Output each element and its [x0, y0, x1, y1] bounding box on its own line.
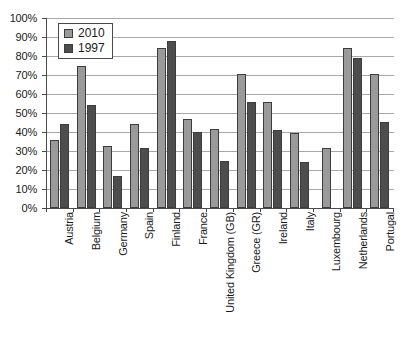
legend-swatch-1997 [64, 44, 73, 53]
x-axis-tick [46, 208, 47, 212]
bar-1997 [87, 105, 96, 208]
bar-group [153, 18, 180, 208]
bar-2010 [50, 140, 59, 208]
x-axis-tick [313, 208, 314, 212]
bar-2010 [263, 102, 272, 208]
bar-group [206, 18, 233, 208]
x-axis-tick [99, 208, 100, 212]
y-axis-tick-label: 40% [16, 126, 37, 138]
legend-item-2010: 2010 [64, 27, 105, 40]
bar-group [313, 18, 340, 208]
x-axis-tick [340, 208, 341, 212]
y-axis-tick-label: 80% [16, 50, 37, 62]
bar-2010 [322, 148, 331, 208]
legend-swatch-2010 [64, 29, 73, 38]
x-axis-tick [393, 208, 394, 212]
bar-1997 [380, 122, 389, 208]
bar-1997 [273, 130, 282, 208]
x-axis-label: Ireland [277, 212, 289, 244]
x-axis-label: Austria [63, 212, 75, 245]
x-axis-labels: AustriaBelgiumGermanySpainFinlandFranceU… [46, 212, 393, 332]
bar-2010 [157, 48, 166, 208]
legend-label-1997: 1997 [78, 42, 105, 55]
x-axis-label: Spain [143, 212, 155, 239]
bar-2010 [183, 119, 192, 208]
y-axis-tick-label: 10% [16, 183, 37, 195]
x-axis-tick [233, 208, 234, 212]
bar-2010 [130, 124, 139, 208]
bar-group [340, 18, 367, 208]
chart-legend: 2010 1997 [58, 23, 113, 59]
bar-1997 [193, 132, 202, 208]
bar-chart: 0%10%20%30%40%50%60%70%80%90%100% Austri… [0, 0, 406, 347]
y-axis-tick-label: 60% [16, 88, 37, 100]
x-axis-label: Greece (GR) [250, 212, 262, 273]
x-axis-tick [366, 208, 367, 212]
bar-group [179, 18, 206, 208]
bar-1997 [167, 41, 176, 208]
x-axis-tick [286, 208, 287, 212]
bar-2010 [370, 74, 379, 208]
y-axis-tick-label: 30% [16, 145, 37, 157]
bar-2010 [343, 48, 352, 208]
x-axis-label: Netherlands [357, 212, 369, 269]
bar-1997 [247, 102, 256, 208]
legend-label-2010: 2010 [78, 27, 105, 40]
x-axis-tick [179, 208, 180, 212]
bar-1997 [113, 176, 122, 208]
bar-group [260, 18, 287, 208]
x-axis-label: Portugal [384, 212, 396, 251]
bar-2010 [290, 133, 299, 208]
bar-1997 [300, 162, 309, 208]
x-axis-label: United Kingdom (GB) [224, 212, 236, 313]
x-axis-label: Finland [170, 212, 182, 247]
x-axis-tick [260, 208, 261, 212]
y-axis-tick-label: 100% [10, 12, 37, 24]
bar-1997 [140, 148, 149, 208]
x-axis-label: France [197, 212, 209, 245]
y-axis-tick-label: 50% [16, 107, 37, 119]
bar-group [366, 18, 393, 208]
bar-2010 [103, 146, 112, 208]
x-axis-label: Belgium [90, 212, 102, 250]
bar-group [233, 18, 260, 208]
bar-group [286, 18, 313, 208]
y-axis-tick-label: 20% [16, 164, 37, 176]
bar-group [126, 18, 153, 208]
x-axis-label: Germany [117, 212, 129, 256]
legend-item-1997: 1997 [64, 42, 105, 55]
bar-2010 [237, 74, 246, 208]
bar-1997 [220, 161, 229, 208]
x-axis-label: Italy [304, 212, 316, 231]
x-axis-tick [126, 208, 127, 212]
bar-1997 [60, 124, 69, 208]
x-axis-tick [153, 208, 154, 212]
y-axis-tick-label: 70% [16, 69, 37, 81]
y-axis-tick-label: 90% [16, 31, 37, 43]
y-axis: 0%10%20%30%40%50%60%70%80%90%100% [0, 0, 42, 347]
bar-1997 [353, 58, 362, 208]
y-axis-tick-label: 0% [22, 202, 38, 214]
x-axis-tick [206, 208, 207, 212]
bar-2010 [210, 129, 219, 208]
x-axis-tick [73, 208, 74, 212]
bar-2010 [77, 66, 86, 209]
x-axis-label: Luxembourg [330, 212, 342, 271]
